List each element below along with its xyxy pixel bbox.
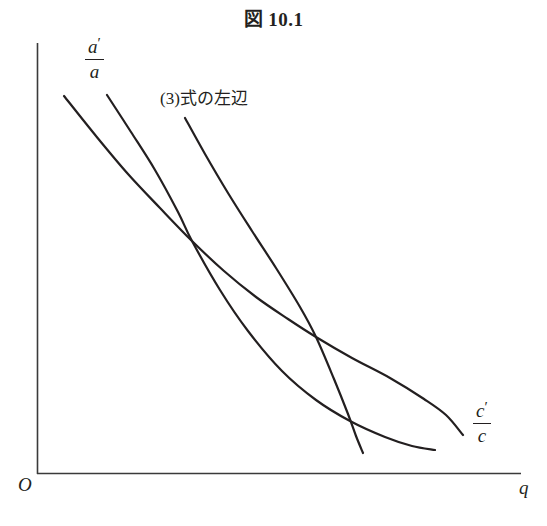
prime-mark-icon: ′ (484, 399, 487, 415)
fraction-a-over-a: a′ a (85, 36, 104, 82)
fraction-denominator: a (85, 61, 104, 82)
fraction-numerator-text: a (88, 36, 98, 57)
curves-group (64, 95, 463, 453)
curve-label-a-ratio: a′ a (85, 36, 104, 83)
x-axis-label: q (519, 477, 529, 499)
fraction-c-over-c: c′ c (473, 400, 491, 446)
curve-label-equation-3: (3)式の左辺 (160, 84, 248, 109)
chart-plot-area (0, 0, 547, 526)
fraction-denominator: c (473, 425, 491, 446)
origin-label: O (18, 474, 32, 496)
fraction-bar (473, 423, 491, 424)
figure-container: 図 10.1 O q a′ a (3)式の左辺 c′ c (0, 0, 547, 526)
prime-mark-icon: ′ (98, 35, 101, 51)
curve-a-ratio (107, 95, 435, 450)
fraction-numerator: a′ (85, 36, 104, 58)
axes-group (37, 43, 521, 474)
fraction-bar (85, 59, 104, 60)
fraction-numerator: c′ (473, 400, 491, 422)
curve-label-c-ratio: c′ c (473, 400, 491, 447)
curve-c-ratio (64, 96, 463, 435)
curve-eq3 (185, 118, 363, 453)
